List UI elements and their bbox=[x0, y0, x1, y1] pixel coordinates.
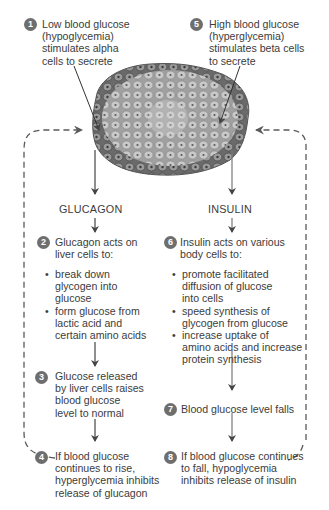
line: stimulates beta cells bbox=[209, 42, 304, 54]
line: break down bbox=[55, 268, 146, 280]
step-6-bullets: promote facilitated diffusion of glucose… bbox=[172, 268, 302, 366]
line: to fall, hypoglycemia bbox=[181, 462, 304, 474]
line: hyperglycemia inhibits bbox=[55, 474, 159, 486]
line: speed synthesis of bbox=[182, 305, 302, 317]
line: (hyperglycemia) bbox=[209, 30, 304, 42]
line: Glucose released bbox=[55, 370, 144, 382]
line: body cells to: bbox=[180, 248, 285, 260]
step-badge-4: 4 bbox=[35, 451, 48, 464]
step-7-text: Blood glucose level falls bbox=[181, 403, 294, 415]
line: cells to secrete bbox=[42, 55, 130, 67]
step-badge-3: 3 bbox=[35, 371, 48, 384]
step-1-text: Low blood glucose (hypoglycemia) stimula… bbox=[42, 18, 130, 67]
line: to secrete bbox=[209, 55, 304, 67]
line: increase uptake of bbox=[182, 329, 302, 341]
step-2-bullets: break down glycogen into glucose form gl… bbox=[45, 268, 146, 341]
step-badge-2: 2 bbox=[37, 236, 50, 249]
hormone-label-insulin: INSULIN bbox=[208, 203, 252, 215]
line: certain amino acids bbox=[55, 329, 146, 341]
step-badge-1: 1 bbox=[24, 18, 37, 31]
line: Low blood glucose bbox=[42, 18, 130, 30]
line: lactic acid and bbox=[55, 317, 146, 329]
line: diffusion of glucose bbox=[182, 280, 302, 292]
step-6-text: Insulin acts on various body cells to: bbox=[180, 236, 285, 260]
step-badge-7: 7 bbox=[164, 403, 177, 416]
step-8-text: If blood glucose continues to fall, hypo… bbox=[181, 450, 304, 487]
bullet-item: promote facilitated diffusion of glucose… bbox=[172, 268, 302, 305]
line: If blood glucose continues bbox=[181, 450, 304, 462]
line: liver cells to: bbox=[55, 248, 137, 260]
line: (hypoglycemia) bbox=[42, 30, 130, 42]
line: level to normal bbox=[55, 407, 144, 419]
step-badge-6: 6 bbox=[164, 236, 177, 249]
line: form glucose from bbox=[55, 305, 146, 317]
bullet-item: speed synthesis of glycogen from glucose bbox=[172, 305, 302, 329]
line: glucose bbox=[55, 292, 146, 304]
line: glycogen from glucose bbox=[182, 317, 302, 329]
line: High blood glucose bbox=[209, 18, 304, 30]
line: Glucagon acts on bbox=[55, 236, 137, 248]
line: If blood glucose bbox=[55, 450, 159, 462]
line: blood glucose bbox=[55, 394, 144, 406]
step-badge-5: 5 bbox=[190, 18, 203, 31]
step-4-text: If blood glucose continues to rise, hype… bbox=[55, 450, 159, 499]
step-5-text: High blood glucose (hyperglycemia) stimu… bbox=[209, 18, 304, 67]
bullet-item: increase uptake of amino acids and incre… bbox=[172, 329, 302, 366]
line: release of glucagon bbox=[55, 487, 159, 499]
hormone-label-glucagon: GLUCAGON bbox=[59, 203, 122, 215]
line: inhibits release of insulin bbox=[181, 474, 304, 486]
step-2-text: Glucagon acts on liver cells to: bbox=[55, 236, 137, 260]
line: by liver cells raises bbox=[55, 382, 144, 394]
line: stimulates alpha bbox=[42, 42, 130, 54]
step-badge-8: 8 bbox=[164, 451, 177, 464]
line: protein synthesis bbox=[182, 353, 302, 365]
step-3-text: Glucose released by liver cells raises b… bbox=[55, 370, 144, 419]
line: into cells bbox=[182, 292, 302, 304]
bullet-item: break down glycogen into glucose bbox=[45, 268, 146, 305]
line: promote facilitated bbox=[182, 268, 302, 280]
line: Insulin acts on various bbox=[180, 236, 285, 248]
line: amino acids and increase bbox=[182, 341, 302, 353]
line: continues to rise, bbox=[55, 462, 159, 474]
bullet-item: form glucose from lactic acid and certai… bbox=[45, 305, 146, 342]
line: glycogen into bbox=[55, 280, 146, 292]
line: Blood glucose level falls bbox=[181, 403, 294, 415]
